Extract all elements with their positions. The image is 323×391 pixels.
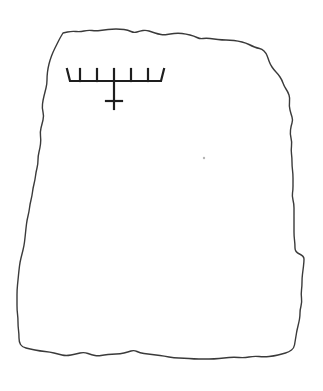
surface-specks: [203, 157, 205, 159]
surface-speck: [203, 157, 205, 159]
menorah-base: [67, 69, 164, 81]
menorah-branches: [80, 69, 148, 81]
menorah-icon: [67, 69, 164, 109]
stone-drawing: [0, 0, 323, 391]
